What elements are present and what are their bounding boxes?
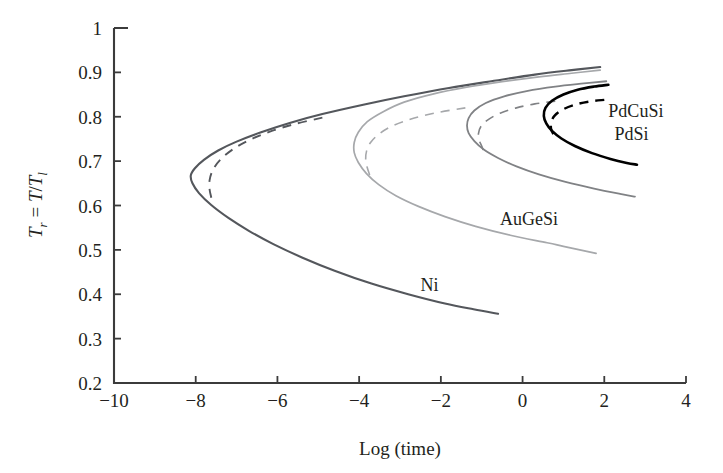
x-tick-label: −10 bbox=[99, 390, 129, 411]
y-tick-label: 0.5 bbox=[78, 240, 102, 261]
ttt-curve-chart: 0.20.30.40.50.60.70.80.91 −10−8−6−4−2024… bbox=[0, 0, 723, 473]
curve-label-pdcusi: PdCuSi bbox=[608, 101, 663, 121]
data-curves bbox=[191, 67, 637, 314]
curve-dashed-augesi bbox=[366, 108, 466, 181]
curve-pdsi bbox=[467, 81, 635, 196]
y-axis-title: Tr = T/Tl bbox=[25, 172, 50, 238]
curve-annotations: NiAuGeSiPdSiPdCuSi bbox=[420, 101, 663, 295]
y-tick-label: 0.7 bbox=[78, 151, 102, 172]
x-tick-label: −2 bbox=[431, 390, 451, 411]
y-tick-label: 0.3 bbox=[78, 329, 102, 350]
x-tick-label: −8 bbox=[186, 390, 206, 411]
curve-label-ni: Ni bbox=[420, 275, 438, 295]
y-tick-label: 0.9 bbox=[78, 62, 102, 83]
y-tick-label: 1 bbox=[93, 18, 103, 39]
x-tick-label: −6 bbox=[267, 390, 287, 411]
x-tick-label: 4 bbox=[681, 390, 691, 411]
x-tick-label: 0 bbox=[518, 390, 528, 411]
svg-text:Tr = T/Tl: Tr = T/Tl bbox=[25, 172, 50, 238]
y-tick-label: 0.4 bbox=[78, 284, 102, 305]
x-tick-label: −4 bbox=[349, 390, 370, 411]
x-axis-title: Log (time) bbox=[359, 438, 441, 460]
curve-augesi bbox=[354, 70, 600, 253]
y-axis-tick-labels: 0.20.30.40.50.60.70.80.91 bbox=[78, 18, 102, 394]
y-title-equals: = bbox=[25, 202, 46, 222]
curve-label-augesi: AuGeSi bbox=[500, 209, 558, 229]
figure-container: 0.20.30.40.50.60.70.80.91 −10−8−6−4−2024… bbox=[0, 0, 723, 473]
curve-dashed-pdcusi bbox=[551, 100, 604, 139]
y-title-sub-l: l bbox=[35, 172, 50, 176]
x-axis-tick-labels: −10−8−6−4−2024 bbox=[99, 390, 691, 411]
x-tick-label: 2 bbox=[600, 390, 610, 411]
y-tick-label: 0.6 bbox=[78, 196, 102, 217]
curve-label-pdsi: PdSi bbox=[615, 124, 649, 144]
y-tick-label: 0.8 bbox=[78, 107, 102, 128]
